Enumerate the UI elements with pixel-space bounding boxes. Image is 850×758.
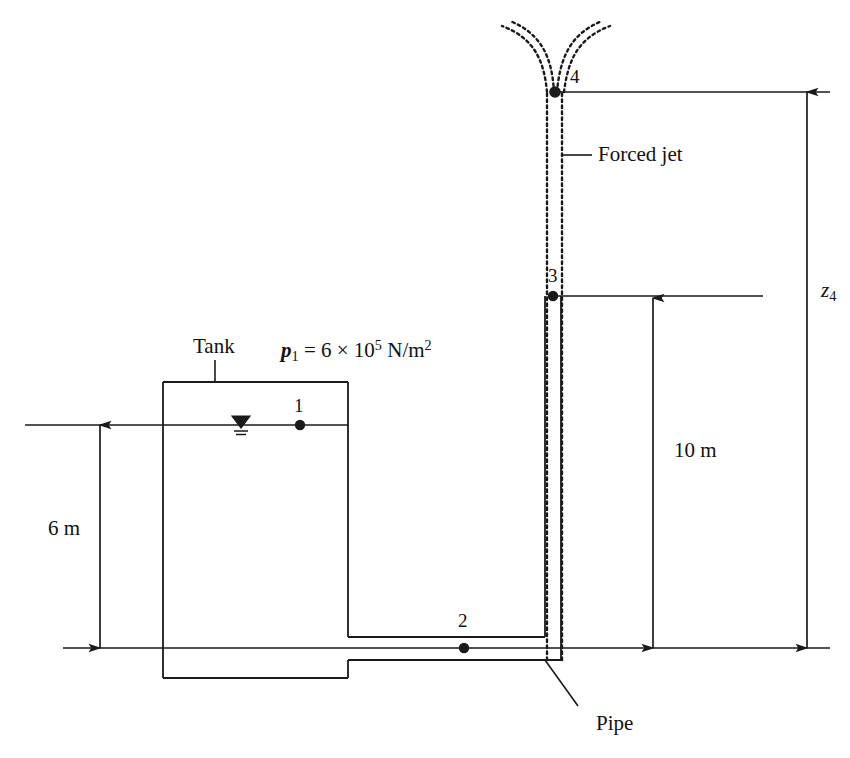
- pressure-exponent: 5: [375, 337, 382, 353]
- pipe-label: Pipe: [596, 713, 633, 734]
- pressure-annotation: p1 = 6 × 105 N/m2: [281, 338, 432, 363]
- point-marker-3: [548, 291, 558, 301]
- forced-jet-label: Forced jet: [598, 144, 683, 165]
- tank-outline: [163, 382, 348, 678]
- dimension-label-10m: 10 m: [674, 440, 717, 461]
- pressure-equals: = 6 × 10: [299, 338, 375, 362]
- figure-canvas: Tank Pipe Forced jet 1 2 3 4 6 m 10 m z4…: [0, 0, 850, 758]
- pressure-symbol: p: [281, 338, 292, 362]
- point-label-3: 3: [548, 266, 558, 285]
- point-label-2: 2: [458, 611, 468, 630]
- forced-jet-dotted-path: [547, 92, 562, 660]
- point-marker-4: [549, 86, 561, 98]
- point-label-1: 1: [294, 396, 304, 415]
- dimension-label-z4: z4: [821, 280, 836, 303]
- point-marker-1: [295, 420, 305, 430]
- dimension-label-6m: 6 m: [48, 518, 80, 539]
- pressure-units: N/m: [382, 338, 425, 362]
- point-label-4: 4: [570, 67, 580, 86]
- leader-line-pipe: [545, 660, 578, 706]
- diagram-svg: [0, 0, 850, 758]
- z4-subscript: 4: [829, 288, 836, 304]
- pressure-units-exponent: 2: [425, 337, 432, 353]
- z4-symbol: z: [821, 278, 829, 302]
- tank-label: Tank: [193, 336, 235, 357]
- point-markers: [295, 86, 561, 653]
- pressure-subscript: 1: [292, 348, 299, 364]
- point-marker-2: [459, 643, 469, 653]
- jet-spray-curves: [502, 21, 610, 92]
